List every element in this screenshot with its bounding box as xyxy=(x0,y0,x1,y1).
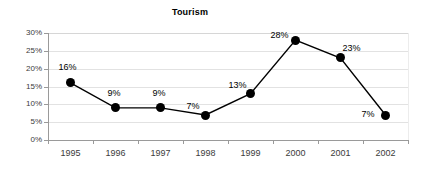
data-point-1998 xyxy=(201,111,210,120)
data-label-2001: 23% xyxy=(343,44,361,53)
data-point-2000 xyxy=(291,36,300,45)
data-label-1999: 13% xyxy=(229,81,247,90)
tourism-line-chart: Tourism 0%5%10%15%20%25%30% 199519961997… xyxy=(0,0,424,170)
data-label-1995: 16% xyxy=(59,63,77,72)
data-point-2002 xyxy=(381,111,390,120)
series-line xyxy=(0,0,424,170)
data-label-2002: 7% xyxy=(362,110,375,119)
data-label-1998: 7% xyxy=(187,102,200,111)
data-label-2000: 28% xyxy=(271,31,289,40)
data-label-1997: 9% xyxy=(153,89,166,98)
data-label-1996: 9% xyxy=(108,89,121,98)
